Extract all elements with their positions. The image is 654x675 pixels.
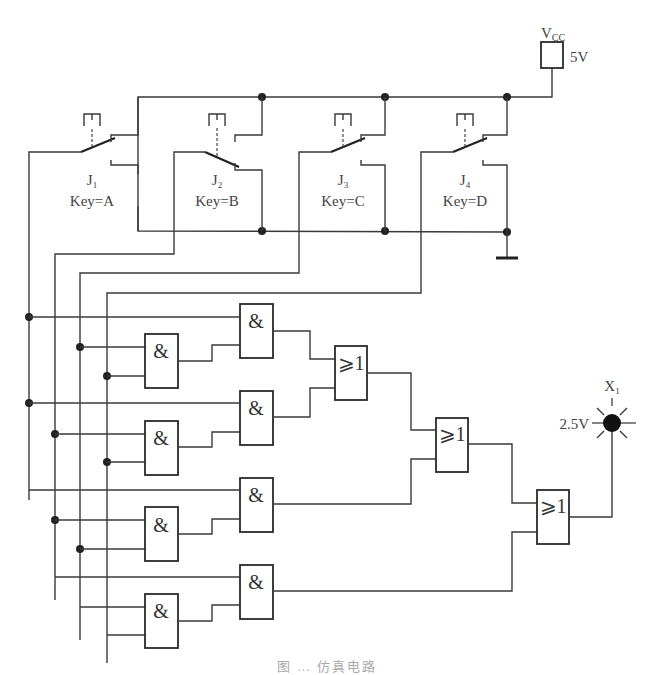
figure-caption: 图 … 仿真电路 — [0, 656, 654, 675]
switch-j1-label: J1 — [87, 172, 97, 190]
probe-bulb — [603, 414, 621, 432]
or-gates: ⩾1 ⩾1 ⩾1 — [273, 331, 612, 591]
switch-j3-label: J3 — [338, 172, 349, 190]
and-gates-column-2: & & & & — [240, 304, 273, 619]
and-gates-column-1: & & & & — [145, 334, 240, 648]
svg-text:⩾1: ⩾1 — [338, 352, 365, 374]
top-power-rail — [138, 93, 511, 174]
svg-text:⩾1: ⩾1 — [540, 495, 567, 517]
svg-text:&: & — [248, 484, 264, 506]
switch-j4-label: J4 — [460, 172, 471, 190]
probe-voltage: 2.5V — [559, 416, 589, 432]
vcc-source: VCC 5V — [506, 25, 589, 97]
switch-j2-label: J2 — [212, 172, 222, 190]
switch-j1-key: Key=A — [70, 193, 114, 209]
svg-text:&: & — [153, 427, 169, 449]
svg-text:&: & — [153, 600, 169, 622]
svg-text:&: & — [153, 340, 169, 362]
svg-text:&: & — [153, 514, 169, 536]
probe-x1: X1 2.5V — [559, 378, 636, 438]
switch-j2-key: Key=B — [195, 193, 238, 209]
switch-j4-key: Key=D — [443, 193, 487, 209]
switch-j3-key: Key=C — [321, 193, 364, 209]
probe-label: X1 — [604, 378, 619, 396]
svg-text:⩾1: ⩾1 — [439, 423, 466, 445]
svg-text:&: & — [248, 310, 264, 332]
svg-text:&: & — [248, 571, 264, 593]
svg-text:&: & — [248, 397, 264, 419]
vcc-box — [541, 42, 563, 68]
bottom-ground-rail — [138, 206, 518, 258]
vcc-voltage: 5V — [570, 49, 589, 65]
switch-j1[interactable]: J1 Key=A — [29, 97, 138, 500]
vcc-label: VCC — [541, 25, 566, 43]
